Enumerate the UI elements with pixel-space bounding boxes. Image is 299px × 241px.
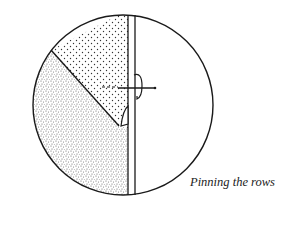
filled-regions <box>30 10 128 200</box>
figure-caption: Pinning the rows <box>190 175 275 190</box>
pinning-diagram <box>0 0 299 241</box>
